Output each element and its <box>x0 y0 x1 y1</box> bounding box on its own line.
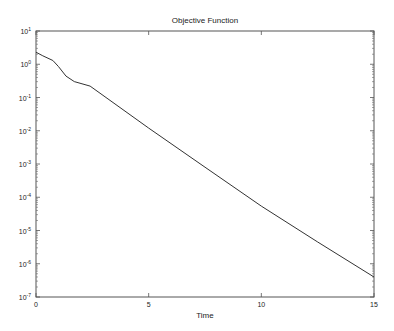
y-tick-label: 10-4 <box>19 192 31 201</box>
line-chart: 10-710-610-510-410-310-210-1100101051015 <box>0 0 394 331</box>
y-tick-label: 10-5 <box>19 226 31 235</box>
y-tick-label: 100 <box>20 59 31 68</box>
x-tick-label: 10 <box>257 301 265 308</box>
x-axis-label: Time <box>0 311 394 320</box>
y-tick-label: 10-1 <box>19 93 31 102</box>
y-tick-label: 10-6 <box>19 259 31 268</box>
x-tick-label: 0 <box>34 301 38 308</box>
y-tick-label: 10-2 <box>19 126 31 135</box>
y-tick-label: 10-7 <box>19 292 31 301</box>
x-tick-label: 5 <box>147 301 151 308</box>
y-tick-label: 101 <box>20 26 31 35</box>
data-line <box>36 52 374 277</box>
plot-frame <box>36 31 374 297</box>
x-tick-label: 15 <box>370 301 378 308</box>
y-tick-label: 10-3 <box>19 159 31 168</box>
